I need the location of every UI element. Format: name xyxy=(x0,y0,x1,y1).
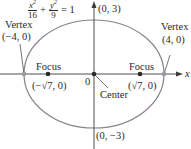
center-point xyxy=(92,72,97,77)
vertex-left-title: Vertex xyxy=(5,19,32,30)
fraction-y: y2 9 xyxy=(49,0,58,20)
equals-one: = 1 xyxy=(61,4,75,15)
x-axis-arrow-icon xyxy=(176,72,183,77)
fraction-x: x2 16 xyxy=(28,0,37,20)
center-leader xyxy=(94,74,108,88)
vertex-left-point xyxy=(22,72,27,77)
focus-left-coord: (−√7, 0) xyxy=(32,80,66,91)
top-point-label: (0, 3) xyxy=(98,3,121,14)
origin-label: 0 xyxy=(85,76,90,87)
ellipse-equation: x2 16 + y2 9 = 1 xyxy=(28,0,75,20)
plus-sign: + xyxy=(40,4,46,15)
x-axis-label: x xyxy=(185,68,190,79)
focus-right-point xyxy=(138,72,143,77)
vertex-right-point xyxy=(162,72,167,77)
vertex-right-leader xyxy=(164,55,170,74)
vertex-left-leader xyxy=(20,44,24,74)
focus-left-title: Focus xyxy=(36,61,61,72)
focus-right-coord: (√7, 0) xyxy=(128,80,157,91)
vertex-left-coord: (−4, 0) xyxy=(2,31,31,42)
vertex-right-coord: (4, 0) xyxy=(162,34,185,45)
vertex-right-title: Vertex xyxy=(161,21,188,32)
center-label: Center xyxy=(100,89,128,100)
focus-right-title: Focus xyxy=(129,61,154,72)
y-axis-arrow-icon xyxy=(92,1,97,8)
bottom-point-label: (0, −3) xyxy=(96,130,125,141)
focus-left-point xyxy=(46,72,51,77)
